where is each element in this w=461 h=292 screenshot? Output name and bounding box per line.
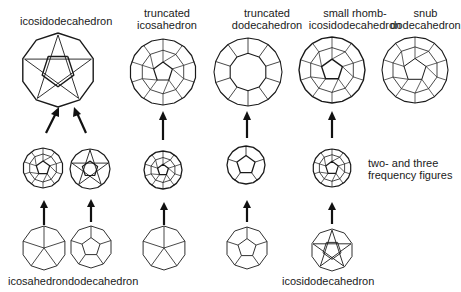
edge	[31, 152, 35, 157]
arrowhead	[328, 111, 336, 120]
edge	[255, 159, 264, 162]
edge	[345, 88, 351, 97]
edge	[422, 79, 429, 88]
edge	[313, 88, 319, 97]
edge	[353, 77, 363, 80]
edge	[72, 150, 108, 184]
edge	[145, 174, 151, 176]
edge	[151, 248, 164, 266]
edge	[228, 159, 237, 162]
polyhedra-diagram	[0, 0, 461, 292]
figure-dodecahedron-2	[227, 227, 267, 269]
edge	[227, 242, 238, 246]
edge	[43, 157, 51, 161]
arrowhead	[51, 107, 59, 117]
edge	[437, 60, 446, 63]
edge	[47, 174, 51, 180]
arrow-dodeca-to-icosidodeca	[77, 113, 86, 133]
edge	[235, 173, 241, 181]
edge	[253, 256, 260, 265]
edge	[384, 60, 393, 63]
edge	[158, 164, 169, 174]
edge	[338, 166, 344, 172]
edge	[170, 155, 174, 160]
edge	[50, 166, 57, 173]
edge	[163, 160, 170, 164]
edge	[340, 179, 343, 184]
edge	[156, 175, 160, 181]
edge	[150, 80, 157, 90]
edge	[404, 59, 426, 80]
edge	[324, 157, 326, 166]
edge	[393, 77, 408, 79]
edge	[266, 78, 281, 83]
edge	[143, 241, 164, 248]
arrowhead	[40, 200, 48, 208]
edge	[338, 79, 345, 88]
edge	[345, 43, 351, 52]
edge	[144, 90, 151, 99]
edge	[426, 66, 437, 77]
edge	[311, 63, 322, 67]
edge	[35, 157, 37, 166]
edge	[340, 153, 343, 158]
edge	[168, 168, 175, 174]
figure-truncated-icosahedron-frequency	[144, 151, 182, 189]
edge	[31, 248, 44, 266]
edge	[100, 241, 111, 245]
edge	[169, 80, 176, 90]
edge	[31, 179, 35, 184]
edge	[326, 161, 339, 173]
edge	[168, 166, 175, 168]
edge	[164, 248, 177, 266]
edge	[332, 52, 345, 59]
edge	[228, 87, 237, 99]
edge	[151, 166, 158, 168]
edge	[172, 69, 183, 79]
edge	[176, 90, 183, 99]
figure-truncated-icosahedron	[131, 39, 196, 105]
edge	[132, 79, 143, 83]
edge	[25, 35, 92, 99]
edge	[238, 239, 256, 256]
arrowhead	[159, 111, 167, 120]
edge	[321, 179, 324, 184]
arrow-icosa-to-icosidodeca	[46, 113, 56, 133]
edge	[237, 156, 255, 173]
edge	[396, 89, 402, 97]
edge	[36, 161, 49, 174]
edge	[163, 80, 169, 94]
edge	[319, 172, 328, 173]
figure-truncated-dodecahedron-frequency	[227, 146, 265, 184]
edge	[324, 173, 328, 178]
edge	[51, 152, 55, 157]
edge	[23, 33, 93, 107]
edge	[142, 79, 157, 80]
edge	[184, 79, 195, 83]
edge	[163, 54, 176, 62]
edge	[321, 153, 324, 158]
edge	[145, 164, 151, 166]
figure-dodecahedron	[71, 226, 111, 268]
edge	[216, 78, 231, 83]
edge	[144, 45, 151, 54]
edge	[24, 162, 30, 164]
edge	[164, 241, 185, 248]
edge	[152, 180, 156, 185]
edge	[30, 164, 37, 166]
edge	[151, 174, 160, 175]
figure-truncated-dodecahedron	[214, 38, 282, 106]
arrowhead	[73, 107, 81, 117]
edge	[314, 172, 320, 174]
arrowhead	[328, 202, 336, 210]
edge	[230, 53, 266, 90]
figure-small-rhombicosidodecahedron	[299, 37, 365, 103]
edge	[311, 77, 326, 79]
edge	[313, 230, 351, 266]
edge	[228, 45, 237, 57]
figure-icosahedron-2	[143, 226, 185, 270]
edge	[235, 256, 242, 265]
edge	[132, 62, 143, 66]
figure-icosidodecahedron-small	[312, 229, 352, 271]
edge	[384, 77, 393, 80]
